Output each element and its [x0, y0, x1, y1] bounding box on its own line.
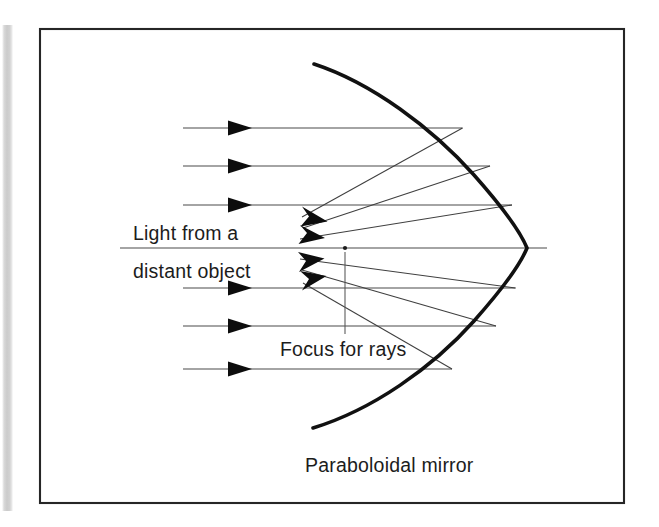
reflected-ray-2 — [303, 166, 490, 228]
arrow-right-icon — [228, 159, 252, 174]
paraboloidal-mirror-diagram: Light from a distant object Focus for ra… — [0, 0, 659, 527]
focus-point-marker — [343, 246, 347, 250]
label-distant-object: distant object — [133, 260, 251, 282]
caption-paraboloidal-mirror: Paraboloidal mirror — [305, 454, 474, 476]
arrow-right-icon — [228, 281, 252, 296]
label-focus-for-rays: Focus for rays — [280, 338, 406, 360]
arrow-right-icon — [228, 121, 252, 136]
arrow-right-icon — [228, 362, 252, 377]
reflected-ray-3 — [300, 205, 512, 239]
reflected-ray-6 — [302, 270, 496, 326]
incoming-rays-group — [120, 128, 547, 369]
figure-root: Light from a distant object Focus for ra… — [0, 0, 659, 527]
arrow-converging-icon — [299, 225, 326, 244]
arrow-right-icon — [228, 319, 252, 334]
label-light-from-a: Light from a — [133, 222, 238, 244]
reflected-ray-5 — [300, 259, 516, 288]
figure-frame-border — [40, 29, 624, 503]
arrow-right-icon — [228, 198, 252, 213]
arrow-converging-icon — [301, 207, 328, 227]
